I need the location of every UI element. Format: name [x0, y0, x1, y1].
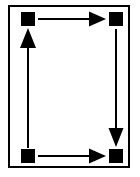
node-top-left [21, 12, 35, 26]
node-bottom-left [21, 149, 35, 163]
node-top-right [109, 12, 123, 26]
node-bottom-right [109, 149, 123, 163]
figure-root [0, 0, 140, 177]
cycle-diagram [0, 0, 140, 177]
